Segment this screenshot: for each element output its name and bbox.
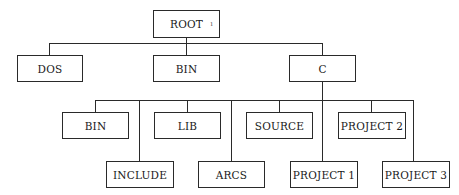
connector-to-source	[279, 100, 280, 112]
connector-to-lib	[187, 100, 188, 112]
node-label: BIN	[176, 63, 198, 75]
node-source: SOURCE	[246, 112, 313, 139]
directory-tree-diagram: ROOT ı DOS BIN C BIN LIB SOURCE PROJECT …	[0, 0, 459, 195]
node-bin: BIN	[153, 55, 220, 82]
node-label: SOURCE	[255, 120, 304, 132]
connector-to-bin	[186, 43, 187, 55]
node-lib: LIB	[154, 112, 221, 139]
node-c: C	[289, 55, 356, 82]
node-root: ROOT ı	[153, 10, 220, 38]
connector-to-dos	[49, 43, 50, 55]
node-dos: DOS	[17, 55, 83, 82]
connector-to-include	[139, 100, 140, 161]
node-label: PROJECT 2	[341, 120, 403, 132]
node-label: PROJECT 1	[293, 169, 355, 181]
connector-to-c-bin	[95, 100, 96, 112]
connector-c-down	[322, 81, 323, 101]
node-project1: PROJECT 1	[290, 161, 358, 188]
node-include: INCLUDE	[106, 161, 174, 188]
connector-to-c	[322, 43, 323, 55]
node-project2: PROJECT 2	[338, 112, 406, 139]
connector-level2-bus	[95, 100, 414, 101]
node-label: LIB	[178, 120, 197, 132]
node-label: DOS	[38, 63, 63, 75]
node-c-bin: BIN	[62, 112, 129, 139]
node-label: ROOT	[170, 18, 203, 30]
connector-to-project3	[413, 100, 414, 161]
node-label: BIN	[85, 120, 107, 132]
connector-to-arcs	[231, 100, 232, 161]
node-label: C	[318, 63, 326, 75]
connector-to-project1	[322, 100, 323, 161]
connector-to-project2	[371, 100, 372, 112]
node-project3: PROJECT 3	[382, 161, 450, 188]
node-arcs: ARCS	[198, 161, 265, 188]
node-label: INCLUDE	[113, 169, 167, 181]
node-label: PROJECT 3	[385, 169, 447, 181]
cursor-mark-icon: ı	[211, 20, 213, 28]
node-label: ARCS	[216, 169, 248, 181]
